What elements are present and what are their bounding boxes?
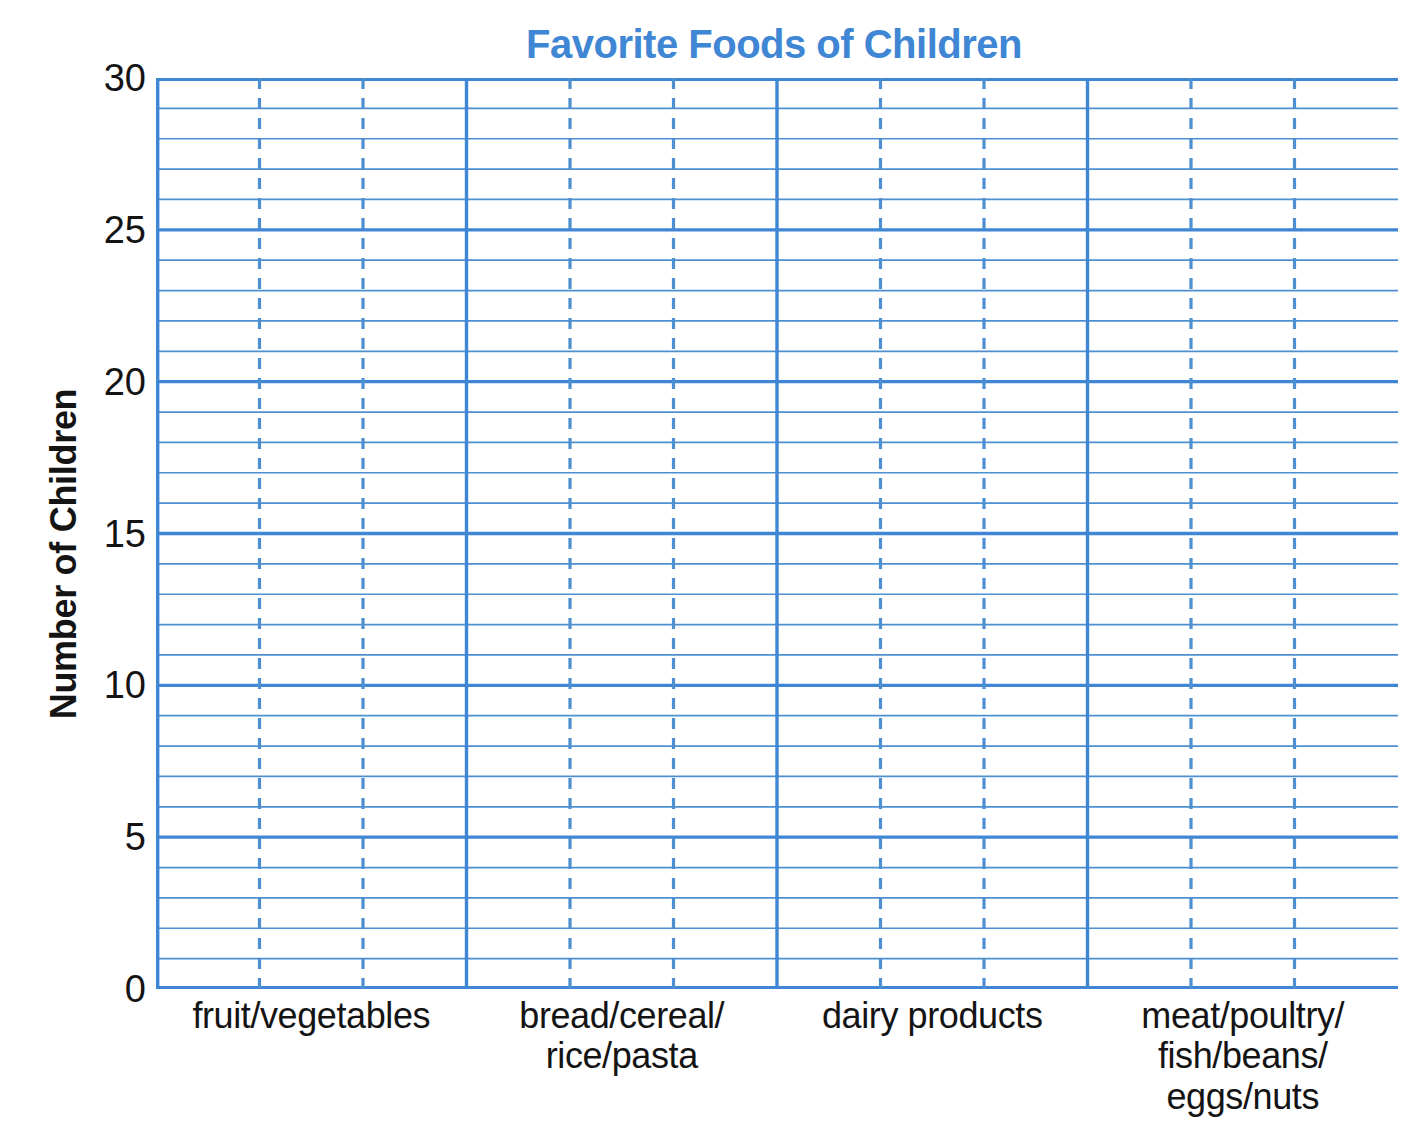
y-axis-tick-label: 25 bbox=[76, 211, 146, 249]
y-axis-tick-label: 5 bbox=[76, 818, 146, 856]
y-axis-tick-label: 30 bbox=[76, 59, 146, 97]
x-axis-category-labels: fruit/vegetablesbread/cereal/ rice/pasta… bbox=[156, 996, 1398, 1142]
chart-page: Favorite Foods of Children Number of Chi… bbox=[0, 0, 1428, 1142]
y-axis-tick-label: 0 bbox=[76, 970, 146, 1008]
x-axis-category-label: fruit/vegetables bbox=[140, 996, 483, 1036]
x-axis-category-label: meat/poultry/ fish/beans/ eggs/nuts bbox=[1072, 996, 1415, 1117]
plot-area bbox=[156, 78, 1398, 989]
x-axis-category-label: dairy products bbox=[761, 996, 1104, 1036]
y-axis-tick-label: 15 bbox=[76, 515, 146, 553]
y-axis-tick-label: 20 bbox=[76, 363, 146, 401]
x-axis-category-label: bread/cereal/ rice/pasta bbox=[451, 996, 794, 1077]
y-axis-tick-label: 10 bbox=[76, 666, 146, 704]
y-axis-tick-labels: 051015202530 bbox=[68, 0, 146, 1010]
cut-off-header-text bbox=[150, 0, 850, 7]
grid-svg bbox=[156, 78, 1398, 989]
page-title: Favorite Foods of Children bbox=[0, 22, 1428, 67]
